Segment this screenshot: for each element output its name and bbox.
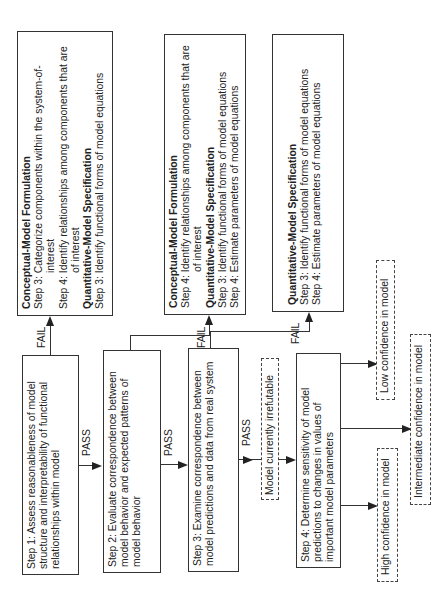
fail-box-3-header-quantitative: Quantitative-Model Specification <box>287 41 299 305</box>
low-confidence-box: Low confidence in model <box>376 260 395 400</box>
step-1-box: Step 1: Assess reasonableness of model s… <box>22 355 79 575</box>
fail-box-2-header-quantitative: Quantitative-Model Specification <box>205 41 217 308</box>
step-3-box: Step 3: Examine correspondence between m… <box>188 348 239 572</box>
step-1-text: Step 1: Assess reasonableness of model s… <box>26 381 61 569</box>
intermediate-confidence-box: Intermediate confidence in model <box>410 334 431 505</box>
fail-box-2-header-conceptual: Conceptual-Model Formulation <box>168 41 180 308</box>
fail-box-1-item: Step 4: Identify relationships among com… <box>58 38 82 309</box>
fail-label-1: FAIL <box>36 327 47 348</box>
fail-box-3: Quantitative-Model Specification Step 3:… <box>272 34 344 312</box>
fail-box-2-item: Step 4: Identify relationships among com… <box>180 41 204 308</box>
step-2-text: Step 2: Evaluate correspondence between … <box>107 371 142 567</box>
pass-arrow-2 <box>178 461 188 469</box>
outcome-connector-high <box>340 505 370 506</box>
outcome-connector-low <box>340 363 370 364</box>
fail-box-2-item: Step 3: Identify functional forms of mod… <box>217 41 229 308</box>
high-confidence-text: High confidence in model <box>380 458 391 575</box>
fail-box-2: Conceptual-Model Formulation Step 4: Ide… <box>164 34 246 315</box>
pass-label-2: PASS <box>163 429 174 456</box>
fail-box-2-item: Step 4: Estimate parameters of model equ… <box>229 41 241 308</box>
pass-label-3: PASS <box>241 419 252 446</box>
fail-box-3-item: Step 4: Estimate parameters of model equ… <box>311 41 323 305</box>
low-confidence-text: Low confidence in model <box>379 279 390 393</box>
fail-connector-3a <box>210 332 211 348</box>
step-2-box: Step 2: Evaluate correspondence between … <box>103 350 161 573</box>
fail-box-1-item: Step 3: Categorize components within the… <box>33 38 57 309</box>
pass-arrow-3a <box>243 456 253 464</box>
fail-box-1-header-conceptual: Conceptual-Model Formulation <box>21 38 33 309</box>
fail-box-1-header-quantitative: Quantitative-Model Specification <box>82 38 94 309</box>
pass-arrow-1 <box>92 462 102 470</box>
fail-connector-3c <box>309 322 310 332</box>
step-4-box: Step 4: Determine sensitivity of model p… <box>296 353 341 568</box>
fail-connector-2a <box>130 336 131 350</box>
high-confidence-box: High confidence in model <box>377 448 398 582</box>
intermediate-confidence-text: Intermediate confidence in model <box>413 345 424 498</box>
fail-connector-1 <box>50 325 51 355</box>
fail-box-3-item: Step 3: Identify functional forms of mod… <box>299 41 311 305</box>
fail-arrow-1 <box>46 316 54 326</box>
fail-label-3: FAIL <box>290 323 301 344</box>
model-irrefutable-box: Model currently irrefutable <box>261 358 279 500</box>
fail-label-2: FAIL <box>196 327 207 348</box>
fail-arrow-3 <box>305 312 313 322</box>
fail-box-1: Conceptual-Model Formulation Step 3: Cat… <box>17 31 113 316</box>
step-3-text: Step 3: Examine correspondence between m… <box>192 362 215 566</box>
pass-label-1: PASS <box>81 429 92 456</box>
outcome-connector-intermediate <box>340 428 404 429</box>
pass-arrow-3b <box>286 456 296 464</box>
fail-arrow-2 <box>205 315 213 325</box>
fail-box-1-item: Step 3: Identify functional forms of mod… <box>94 38 106 309</box>
model-irrefutable-text: Model currently irrefutable <box>264 375 275 495</box>
step-4-text: Step 4: Determine sensitivity of model p… <box>300 388 335 562</box>
validation-flowchart: Step 1: Assess reasonableness of model s… <box>0 0 440 606</box>
